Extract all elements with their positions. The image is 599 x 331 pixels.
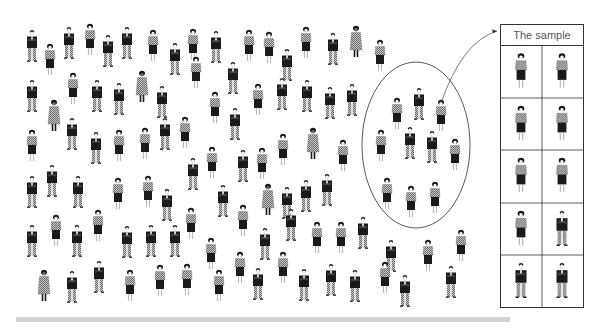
man-figure-icon [92, 80, 102, 112]
man-figure-icon [122, 27, 132, 59]
man-figure-icon [228, 62, 238, 94]
man-figure-icon [27, 30, 37, 62]
man-figure-icon [347, 84, 357, 116]
woman-figure-icon [406, 186, 416, 217]
man-figure-icon [301, 180, 311, 212]
man-figure-icon [94, 261, 104, 293]
man-figure-icon [277, 78, 287, 110]
woman-figure-icon [207, 147, 217, 178]
man-figure-icon [72, 225, 82, 257]
woman-figure-icon [186, 208, 196, 239]
coat-figure-icon [48, 100, 60, 131]
woman-figure-icon [312, 222, 322, 253]
man-figure-icon [253, 268, 263, 300]
man-figure-icon [325, 87, 335, 119]
man-figure-icon [160, 118, 170, 150]
woman-figure-icon [125, 270, 135, 301]
bottom-divider-bar [16, 317, 510, 322]
man-figure-icon [122, 226, 132, 258]
woman-figure-icon [456, 230, 466, 261]
woman-figure-icon [436, 100, 446, 131]
man-figure-icon [162, 189, 172, 221]
coat-figure-icon [136, 71, 148, 102]
coat-figure-icon [38, 270, 50, 301]
woman-figure-icon [278, 134, 288, 165]
coat-figure-icon [350, 26, 362, 57]
sample-box [501, 25, 584, 308]
woman-figure-icon [148, 30, 158, 61]
man-figure-icon [350, 270, 360, 302]
man-figure-icon [67, 118, 77, 150]
man-figure-icon [73, 176, 83, 208]
woman-figure-icon [257, 148, 267, 179]
woman-figure-icon [155, 265, 165, 296]
coat-figure-icon [262, 184, 274, 215]
man-figure-icon [358, 217, 368, 249]
woman-figure-icon [423, 240, 433, 271]
man-figure-icon [27, 176, 37, 208]
man-figure-icon [67, 271, 77, 303]
man-figure-icon [170, 225, 180, 257]
woman-figure-icon [68, 73, 78, 104]
woman-figure-icon [182, 264, 192, 295]
woman-figure-icon [278, 252, 288, 283]
selection-arrow [441, 31, 497, 103]
woman-figure-icon [430, 182, 440, 213]
man-figure-icon [286, 209, 296, 241]
woman-figure-icon [238, 205, 248, 236]
woman-figure-icon [253, 84, 263, 115]
man-figure-icon [414, 88, 424, 120]
man-figure-icon [326, 264, 336, 296]
man-figure-icon [405, 127, 415, 159]
woman-figure-icon [336, 222, 346, 253]
man-figure-icon [260, 228, 270, 260]
woman-figure-icon [235, 252, 245, 283]
man-figure-icon [386, 240, 396, 272]
woman-figure-icon [450, 139, 460, 170]
woman-figure-icon [264, 32, 274, 63]
man-figure-icon [400, 275, 410, 307]
man-figure-icon [64, 27, 74, 59]
man-figure-icon [114, 83, 124, 115]
man-figure-icon [238, 150, 248, 182]
man-figure-icon [282, 49, 292, 81]
man-figure-icon [91, 132, 101, 164]
woman-figure-icon [27, 130, 37, 161]
man-figure-icon [188, 158, 198, 190]
woman-figure-icon [376, 130, 386, 161]
woman-figure-icon [140, 128, 150, 159]
man-figure-icon [322, 174, 332, 206]
man-figure-icon [47, 165, 57, 197]
coat-figure-icon [307, 128, 319, 159]
woman-figure-icon [206, 238, 216, 269]
woman-figure-icon [188, 29, 198, 60]
selected-group [376, 88, 460, 217]
man-figure-icon [328, 33, 338, 65]
man-figure-icon [299, 269, 309, 301]
sample-title: The sample [501, 25, 583, 45]
woman-figure-icon [191, 57, 201, 88]
man-figure-icon [230, 108, 240, 140]
man-figure-icon [157, 86, 167, 118]
woman-figure-icon [214, 270, 224, 301]
man-figure-icon [302, 80, 312, 112]
population-sampling-diagram [0, 0, 599, 331]
man-figure-icon [103, 35, 113, 67]
woman-figure-icon [180, 117, 190, 148]
man-figure-icon [427, 131, 437, 163]
woman-figure-icon [382, 178, 392, 209]
woman-figure-icon [301, 27, 311, 58]
woman-figure-icon [143, 176, 153, 207]
man-figure-icon [27, 225, 37, 257]
man-figure-icon [218, 185, 228, 217]
woman-figure-icon [113, 178, 123, 209]
woman-figure-icon [392, 98, 402, 129]
woman-figure-icon [93, 210, 103, 241]
woman-figure-icon [244, 30, 254, 61]
woman-figure-icon [85, 24, 95, 55]
man-figure-icon [146, 225, 156, 257]
man-figure-icon [27, 80, 37, 112]
man-figure-icon [170, 43, 180, 75]
woman-figure-icon [45, 44, 55, 75]
woman-figure-icon [51, 215, 61, 246]
